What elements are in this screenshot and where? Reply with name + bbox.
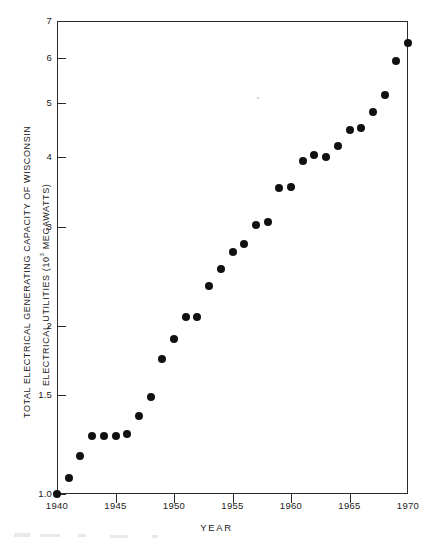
y-tick-label: 7 (0, 15, 52, 26)
data-point (182, 313, 190, 321)
y-tick-mark (57, 103, 66, 104)
plot-area (57, 21, 408, 494)
data-point (100, 432, 108, 440)
data-point (240, 240, 248, 248)
data-point (264, 218, 272, 226)
data-point (53, 490, 61, 498)
y-tick-mark (57, 395, 66, 396)
y-tick-mark (57, 326, 66, 327)
y-axis-title-line2-post: MEGAWATTS) (41, 184, 51, 253)
data-point (88, 432, 96, 440)
y-tick-mark (57, 157, 66, 158)
y-axis-title-line1: TOTAL ELECTRICAL GENERATING CAPACITY OF … (22, 96, 32, 448)
scan-smudge-a (14, 533, 30, 537)
figure: 1.01.5234567 194019451950195519601965197… (0, 0, 433, 544)
scan-smudge-e (152, 535, 158, 538)
paper-speck (257, 97, 259, 99)
data-point (65, 474, 73, 482)
x-tick-label: 1950 (154, 500, 194, 511)
data-point (147, 393, 155, 401)
x-tick-label: 1940 (37, 500, 77, 511)
data-point (229, 248, 237, 256)
y-tick-mark (57, 58, 66, 59)
data-point (346, 126, 354, 134)
y-tick-label: 6 (0, 52, 52, 63)
data-point (334, 142, 342, 150)
data-point (392, 57, 400, 65)
x-tick-label: 1945 (96, 500, 136, 511)
x-tick-label: 1970 (388, 500, 428, 511)
data-point (404, 39, 412, 47)
y-tick-label: 1.0 (0, 488, 52, 499)
y-axis-title-exponent: 3 (38, 253, 45, 257)
y-axis-title-line2: ELECTRICAL UTILITIES (103 MEGAWATTS) (38, 120, 51, 450)
data-point (381, 91, 389, 99)
data-point (299, 157, 307, 165)
y-axis-title-line2-pre: ELECTRICAL UTILITIES (10 (41, 257, 51, 387)
data-point (112, 432, 120, 440)
x-tick-label: 1965 (330, 500, 370, 511)
y-tick-mark (57, 21, 66, 22)
x-axis-title: YEAR (0, 522, 433, 533)
scan-smudge-d (110, 535, 128, 538)
x-tick-label: 1955 (213, 500, 253, 511)
y-tick-mark (57, 227, 66, 228)
x-tick-label: 1960 (271, 500, 311, 511)
scan-smudge-b (40, 534, 60, 537)
data-point (135, 412, 143, 420)
scan-smudge-c (78, 534, 86, 537)
